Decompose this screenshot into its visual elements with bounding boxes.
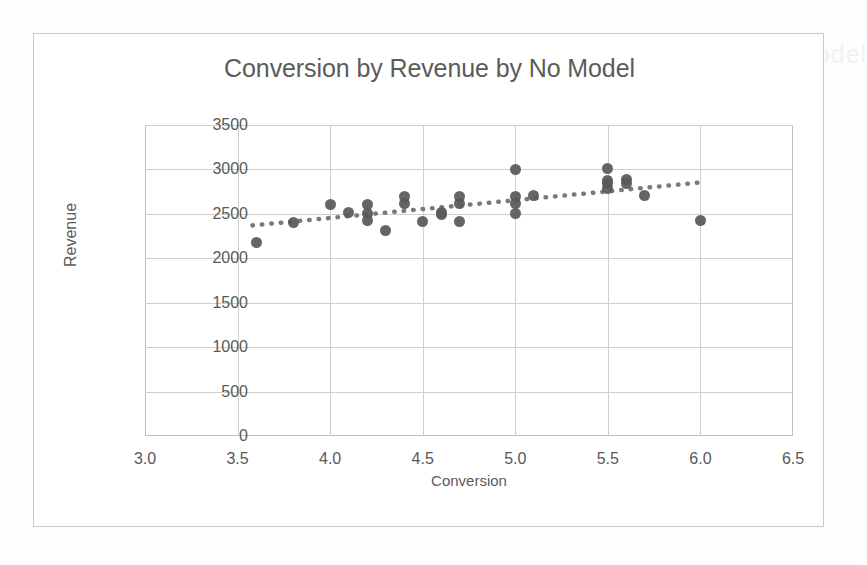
data-point bbox=[399, 198, 410, 209]
x-tick-label: 3.0 bbox=[134, 450, 156, 468]
x-tick-label: 6.0 bbox=[689, 450, 711, 468]
data-point bbox=[510, 198, 521, 209]
data-point bbox=[528, 190, 539, 201]
y-tick-label: 2500 bbox=[212, 205, 248, 223]
x-tick-label: 5.0 bbox=[504, 450, 526, 468]
y-tick-label: 2000 bbox=[212, 249, 248, 267]
data-point bbox=[288, 217, 299, 228]
y-tick-label: 1500 bbox=[212, 294, 248, 312]
data-point bbox=[510, 164, 521, 175]
x-tick-label: 4.0 bbox=[319, 450, 341, 468]
data-point bbox=[621, 178, 632, 189]
y-tick-label: 3000 bbox=[212, 160, 248, 178]
data-point bbox=[602, 183, 613, 194]
data-point bbox=[436, 209, 447, 220]
chart-title: Conversion by Revenue by No Model bbox=[34, 54, 825, 83]
y-axis-title: Revenue bbox=[62, 203, 80, 267]
y-tick-label: 1000 bbox=[212, 338, 248, 356]
x-axis-tick-labels: 3.03.54.04.55.05.56.06.5 bbox=[145, 436, 793, 476]
data-point bbox=[454, 198, 465, 209]
y-axis-tick-labels: 0500100015002000250030003500 bbox=[141, 125, 256, 436]
plot-area: 0500100015002000250030003500 3.03.54.04.… bbox=[145, 125, 793, 436]
y-tick-label: 3500 bbox=[212, 116, 248, 134]
x-tick-label: 3.5 bbox=[226, 450, 248, 468]
chart-frame: Conversion by Revenue by No Model Revenu… bbox=[33, 33, 824, 527]
x-tick-label: 5.5 bbox=[597, 450, 619, 468]
x-axis-title: Conversion bbox=[145, 472, 793, 489]
x-tick-label: 6.5 bbox=[782, 450, 804, 468]
y-tick-label: 500 bbox=[221, 383, 248, 401]
x-tick-label: 4.5 bbox=[412, 450, 434, 468]
